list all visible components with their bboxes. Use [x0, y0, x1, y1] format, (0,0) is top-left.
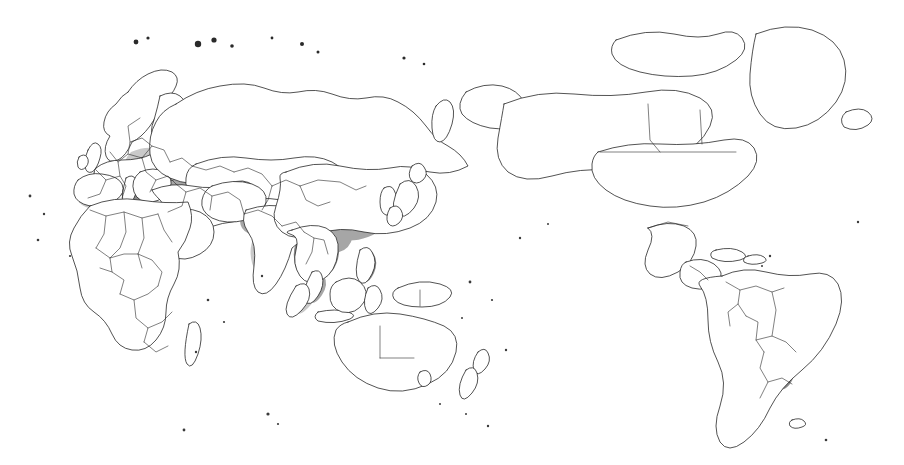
islet-10 [423, 63, 426, 66]
speck-mid-atlantic [857, 221, 859, 223]
land-tasmania [418, 370, 431, 386]
speck-indian-3 [195, 351, 197, 353]
islet-9 [402, 56, 405, 59]
speck-indian-4 [261, 275, 263, 277]
speck-pacific-2 [547, 223, 549, 225]
speck-south-1 [183, 429, 186, 432]
speck-pacific-7 [439, 403, 441, 405]
speck-pacific-8 [465, 413, 467, 415]
speck-pacific-6 [505, 349, 507, 351]
speck-atlantic-2 [43, 213, 45, 215]
speck-caribbean-1 [769, 255, 771, 257]
speck-atlantic-3 [37, 239, 40, 242]
land-hispaniola [744, 255, 767, 265]
islet-6 [271, 37, 274, 40]
speck-pacific-1 [519, 237, 521, 239]
speck-indian-1 [207, 299, 210, 302]
speck-pacific-4 [491, 299, 493, 301]
islet-7 [300, 42, 304, 46]
islet-5 [230, 44, 234, 48]
speck-south-3 [277, 423, 279, 425]
map-canvas [0, 0, 904, 465]
islet-4 [211, 37, 216, 42]
speck-pacific-5 [461, 317, 463, 319]
speck-south-5 [825, 439, 828, 442]
world-distribution-map [0, 0, 904, 465]
land-falklands [789, 419, 805, 429]
islet-2 [146, 36, 149, 39]
islet-3 [195, 41, 201, 47]
speck-south-2 [266, 412, 269, 415]
speck-atlantic-1 [29, 195, 32, 198]
speck-pacific-3 [469, 281, 472, 284]
speck-caribbean-2 [761, 265, 763, 267]
speck-indian-2 [223, 321, 225, 323]
islet-1 [134, 40, 139, 45]
islet-8 [317, 51, 320, 54]
speck-south-4 [487, 425, 489, 427]
speck-atlantic-4 [69, 255, 71, 257]
